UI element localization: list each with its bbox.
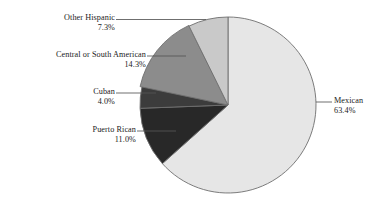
callout-other-hispanic: Other Hispanic 7.3% bbox=[64, 13, 115, 33]
callout-other-hispanic-percent: 7.3% bbox=[64, 23, 115, 33]
callout-cuban: Cuban 4.0% bbox=[93, 87, 115, 107]
callout-mexican-label: Mexican bbox=[334, 96, 363, 106]
callout-central-or-south-american-label: Central or South American bbox=[56, 50, 146, 60]
pie-chart-figure: Other Hispanic 7.3% Central or South Ame… bbox=[0, 0, 379, 201]
callout-puerto-rican-label: Puerto Rican bbox=[93, 125, 136, 135]
pie-chart-graphic bbox=[0, 0, 379, 201]
callout-cuban-label: Cuban bbox=[93, 87, 115, 97]
callout-puerto-rican-percent: 11.0% bbox=[93, 135, 136, 145]
callout-central-or-south-american-percent: 14.3% bbox=[56, 60, 146, 70]
callout-puerto-rican: Puerto Rican 11.0% bbox=[93, 125, 136, 145]
callout-mexican-percent: 63.4% bbox=[334, 106, 363, 116]
callout-cuban-percent: 4.0% bbox=[93, 97, 115, 107]
pie-slices bbox=[140, 17, 316, 193]
callout-other-hispanic-label: Other Hispanic bbox=[64, 13, 115, 23]
callout-mexican: Mexican 63.4% bbox=[334, 96, 363, 116]
callout-central-or-south-american: Central or South American 14.3% bbox=[56, 50, 146, 70]
